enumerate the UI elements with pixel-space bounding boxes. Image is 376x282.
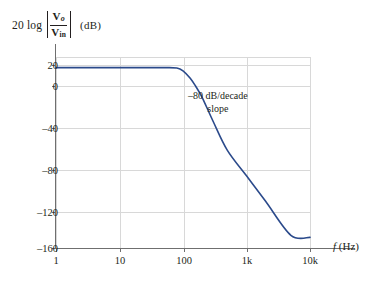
- y-tick-label--120: –120: [0, 207, 58, 218]
- magnitude-response-curve: [56, 57, 316, 253]
- y-axis-label-lead: 20 log: [12, 19, 42, 31]
- x-tick-label-10k: 10k: [302, 255, 318, 266]
- abs-bar-right-icon: [70, 11, 71, 38]
- x-tick-label-1k: 1k: [242, 255, 253, 266]
- curve-path: [56, 68, 310, 239]
- x-axis-symbol: f: [333, 240, 336, 252]
- slope-annotation-line2: slope: [188, 102, 248, 115]
- slope-annotation: –80 dB/decade slope: [188, 89, 248, 115]
- fraction-numerator: Vo: [52, 11, 66, 23]
- x-tick-label-1: 1: [53, 255, 58, 266]
- y-tick-label-20: 20: [0, 60, 58, 71]
- y-tick-label--40: –40: [0, 123, 58, 134]
- x-tick-label-100: 100: [176, 255, 192, 266]
- y-tick-label-0: 0: [0, 81, 58, 92]
- bode-magnitude-figure: 20 log Vo Vin (dB): [0, 0, 376, 282]
- y-tick-label--160: –160: [0, 243, 58, 254]
- abs-bar-left-icon: [47, 11, 48, 38]
- y-axis-label: 20 log Vo Vin (dB): [12, 11, 101, 39]
- denominator-subscript: in: [59, 30, 66, 39]
- voltage-ratio-fraction: Vo Vin: [50, 11, 67, 39]
- x-tick-label-10: 10: [115, 255, 126, 266]
- x-axis-units: (Hz): [339, 240, 359, 252]
- numerator-subscript: o: [61, 14, 65, 23]
- slope-annotation-line1: –80 dB/decade: [188, 89, 248, 102]
- y-tick-label--80: –80: [0, 165, 58, 176]
- y-axis-units: (dB): [80, 19, 101, 31]
- plot-area: –80 dB/decade slope: [56, 57, 311, 248]
- fraction-denominator: Vin: [50, 27, 67, 39]
- x-axis-label: f (Hz): [333, 240, 359, 252]
